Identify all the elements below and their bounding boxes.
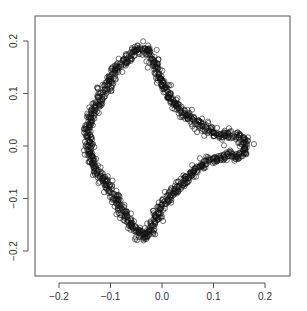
x-tick-label: 0.0 (155, 291, 169, 302)
y-tick-label: −0.2 (8, 241, 19, 261)
x-tick-label: 0.1 (207, 291, 221, 302)
scatter-chart: −0.2−0.10.00.10.2 −0.2−0.10.00.10.2 (0, 0, 307, 311)
y-tick-label: 0.0 (8, 139, 19, 153)
x-tick-label: −0.2 (49, 291, 69, 302)
data-points (81, 39, 256, 243)
x-tick-label: 0.2 (258, 291, 272, 302)
y-axis: −0.2−0.10.00.10.2 (8, 34, 28, 261)
x-tick-label: −0.1 (101, 291, 121, 302)
x-axis: −0.2−0.10.00.10.2 (49, 283, 272, 302)
y-tick-label: 0.2 (8, 34, 19, 48)
y-tick-label: 0.1 (8, 86, 19, 100)
y-tick-label: −0.1 (8, 188, 19, 208)
